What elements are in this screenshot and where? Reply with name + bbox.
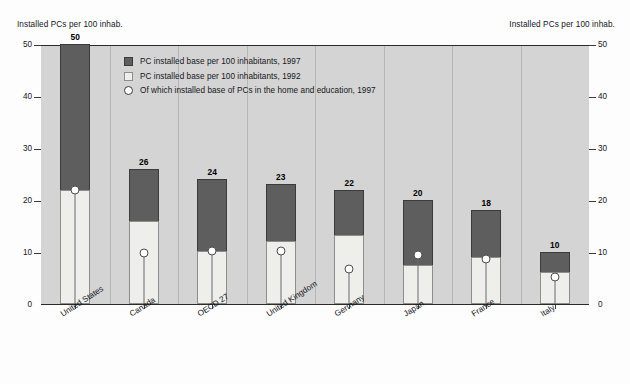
left-axis-title: Installed PCs per 100 inhab.: [17, 20, 123, 29]
home-edu-dot-marker[interactable]: [550, 273, 559, 282]
home-edu-stem: [417, 255, 418, 304]
bar-value-label: 26: [139, 157, 148, 167]
home-edu-dot-marker[interactable]: [413, 250, 422, 259]
y-tick-label-left: 10: [8, 248, 32, 257]
legend-label: PC installed base per 100 inhabitants, 1…: [140, 72, 301, 81]
y-tick-mark-left: [34, 149, 41, 150]
category-tick: [212, 305, 213, 309]
y-tick-label-left: 0: [8, 300, 32, 309]
legend-item[interactable]: PC installed base per 100 inhabitants, 1…: [124, 57, 376, 66]
home-edu-dot-marker[interactable]: [208, 246, 217, 255]
legend-label: Of which installed base of PCs in the ho…: [140, 86, 376, 95]
y-tick-label-right: 40: [598, 92, 622, 101]
y-tick-label-left: 20: [8, 196, 32, 205]
y-tick-mark-right: [589, 253, 596, 254]
y-tick-label-left: 50: [8, 40, 32, 49]
y-tick-mark-left: [34, 253, 41, 254]
legend-item[interactable]: Of which installed base of PCs in the ho…: [124, 86, 376, 95]
y-tick-label-left: 40: [8, 92, 32, 101]
home-edu-stem: [280, 251, 281, 304]
bar-value-label: 18: [482, 198, 491, 208]
bar-value-label: 10: [550, 240, 559, 250]
category-separator: [452, 46, 453, 304]
legend-item[interactable]: PC installed base per 100 inhabitants, 1…: [124, 72, 376, 81]
legend-label: PC installed base per 100 inhabitants, 1…: [140, 57, 301, 66]
category-label: Italy: [539, 303, 557, 319]
bar-value-label: 50: [71, 32, 80, 42]
bar-group[interactable]: 24: [197, 179, 227, 304]
bar-group[interactable]: 10: [540, 252, 570, 304]
y-tick-label-right: 20: [598, 196, 622, 205]
y-tick-mark-right: [589, 45, 596, 46]
home-edu-stem: [486, 259, 487, 304]
bar-value-label: 20: [413, 188, 422, 198]
chart-figure: Installed PCs per 100 inhab. Installed P…: [0, 0, 630, 384]
category-tick: [349, 305, 350, 309]
home-edu-stem: [143, 253, 144, 304]
bar-group[interactable]: 22: [334, 190, 364, 304]
category-tick: [144, 305, 145, 309]
category-separator: [521, 46, 522, 304]
category-tick: [418, 305, 419, 309]
home-edu-dot-marker[interactable]: [345, 265, 354, 274]
y-tick-mark-left: [34, 97, 41, 98]
y-tick-label-right: 0: [598, 300, 622, 309]
home-edu-dot-marker[interactable]: [482, 255, 491, 264]
bar-group[interactable]: 23: [266, 184, 296, 304]
y-tick-label-right: 10: [598, 248, 622, 257]
bar-group[interactable]: 50: [60, 44, 90, 304]
y-tick-mark-left: [34, 45, 41, 46]
bar-group[interactable]: 18: [471, 210, 501, 304]
home-edu-stem: [212, 251, 213, 304]
home-edu-dot-marker[interactable]: [276, 246, 285, 255]
category-separator: [384, 46, 385, 304]
category-tick: [486, 305, 487, 309]
category-tick: [75, 305, 76, 309]
y-tick-label-left: 30: [8, 144, 32, 153]
light-square-icon: [124, 72, 133, 81]
right-axis-title: Installed PCs per 100 inhab.: [509, 20, 615, 29]
y-tick-mark-right: [589, 201, 596, 202]
bar-value-label: 22: [345, 178, 354, 188]
y-tick-mark-right: [589, 97, 596, 98]
bar-group[interactable]: 20: [403, 200, 433, 304]
home-edu-dot-marker[interactable]: [139, 249, 148, 258]
y-tick-label-right: 30: [598, 144, 622, 153]
bar-value-label: 24: [208, 167, 217, 177]
home-edu-dot-marker[interactable]: [71, 185, 80, 194]
home-edu-stem: [75, 190, 76, 304]
category-separator: [110, 46, 111, 304]
y-tick-label-right: 50: [598, 40, 622, 49]
category-tick: [281, 305, 282, 309]
y-tick-mark-right: [589, 149, 596, 150]
bar-value-label: 23: [276, 172, 285, 182]
y-tick-mark-left: [34, 201, 41, 202]
bar-group[interactable]: 26: [129, 169, 159, 304]
category-tick: [555, 305, 556, 309]
chart-legend: PC installed base per 100 inhabitants, 1…: [124, 57, 376, 95]
white-circle-icon: [124, 86, 133, 95]
dark-square-icon: [124, 57, 133, 66]
